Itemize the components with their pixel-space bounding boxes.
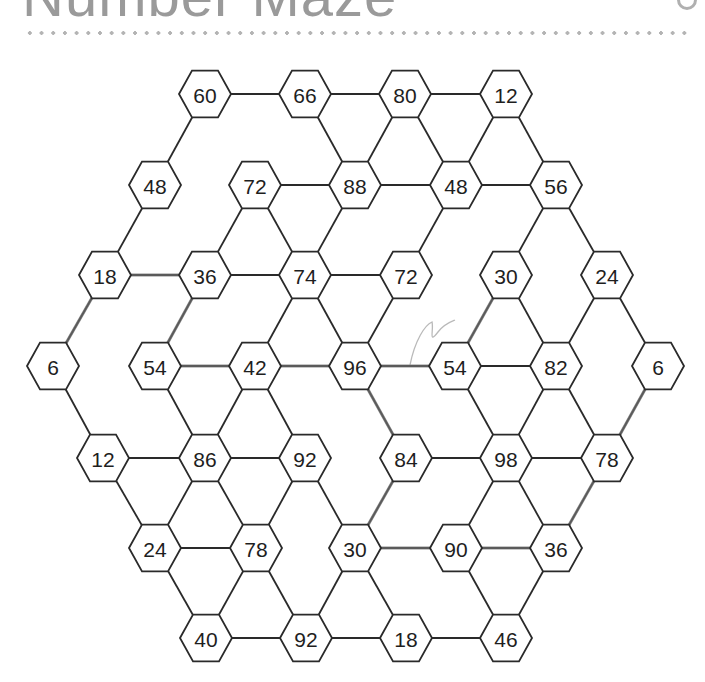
node-value: 66: [293, 84, 316, 107]
node-value: 74: [293, 265, 317, 288]
node-value: 96: [343, 356, 366, 379]
node-value: 54: [443, 356, 467, 379]
node-value: 18: [93, 265, 116, 288]
maze-node[interactable]: 6: [632, 343, 684, 390]
maze-node[interactable]: 42: [229, 343, 281, 390]
node-value: 48: [444, 175, 467, 198]
node-value: 36: [544, 538, 567, 561]
node-value: 18: [394, 628, 417, 651]
maze-node[interactable]: 36: [179, 252, 231, 299]
maze-node[interactable]: 66: [279, 71, 331, 118]
maze-node[interactable]: 74: [279, 252, 331, 299]
node-value: 42: [243, 356, 266, 379]
maze-node[interactable]: 54: [129, 343, 181, 390]
maze-node[interactable]: 72: [380, 252, 432, 299]
maze-node[interactable]: 48: [430, 162, 482, 209]
node-value: 60: [193, 84, 216, 107]
maze-node[interactable]: 72: [229, 162, 281, 209]
maze-node[interactable]: 24: [129, 525, 181, 572]
node-value: 90: [444, 538, 467, 561]
maze-node[interactable]: 84: [380, 435, 432, 482]
maze-node[interactable]: 78: [230, 525, 282, 572]
node-value: 92: [293, 448, 316, 471]
maze-node[interactable]: 80: [379, 71, 431, 118]
maze-node[interactable]: 82: [530, 343, 582, 390]
maze-node[interactable]: 18: [79, 252, 131, 299]
maze-node[interactable]: 24: [581, 252, 633, 299]
maze-node[interactable]: 12: [77, 435, 129, 482]
node-value: 54: [143, 356, 167, 379]
maze-node[interactable]: 88: [329, 162, 381, 209]
maze-node[interactable]: 90: [430, 525, 482, 572]
node-value: 84: [394, 448, 418, 471]
maze-node[interactable]: 56: [530, 162, 582, 209]
maze-nodes: 6066801248728848561836747230246544296548…: [27, 71, 684, 662]
maze-node[interactable]: 30: [480, 252, 532, 299]
maze-node[interactable]: 92: [280, 615, 332, 662]
node-value: 80: [393, 84, 416, 107]
node-value: 72: [243, 175, 266, 198]
node-value: 30: [343, 538, 366, 561]
node-value: 48: [143, 175, 166, 198]
node-value: 98: [494, 448, 517, 471]
node-value: 92: [294, 628, 317, 651]
maze-node[interactable]: 54: [429, 343, 481, 390]
maze-node[interactable]: 60: [179, 71, 231, 118]
node-value: 46: [494, 628, 517, 651]
maze-node[interactable]: 12: [480, 71, 532, 118]
maze-node[interactable]: 18: [380, 615, 432, 662]
pencil-solution-line: [53, 275, 658, 548]
node-value: 30: [494, 265, 517, 288]
node-value: 36: [193, 265, 216, 288]
maze-node[interactable]: 36: [530, 525, 582, 572]
pencil-path: [53, 275, 658, 548]
node-value: 6: [652, 356, 664, 379]
node-value: 72: [394, 265, 417, 288]
node-value: 12: [494, 84, 517, 107]
maze-node[interactable]: 48: [129, 162, 181, 209]
maze-node[interactable]: 86: [179, 435, 231, 482]
maze-node[interactable]: 98: [480, 435, 532, 482]
maze-node[interactable]: 78: [581, 435, 633, 482]
node-value: 56: [544, 175, 567, 198]
maze-node[interactable]: 40: [180, 615, 232, 662]
node-value: 24: [595, 265, 619, 288]
node-value: 88: [343, 175, 366, 198]
node-value: 12: [91, 448, 114, 471]
maze-node[interactable]: 30: [329, 525, 381, 572]
node-value: 78: [595, 448, 618, 471]
node-value: 6: [47, 356, 59, 379]
maze-node[interactable]: 92: [279, 435, 331, 482]
node-value: 86: [193, 448, 216, 471]
maze-node[interactable]: 96: [329, 343, 381, 390]
number-maze: 6066801248728848561836747230246544296548…: [0, 0, 705, 682]
node-value: 24: [143, 538, 167, 561]
maze-node[interactable]: 46: [480, 615, 532, 662]
node-value: 40: [194, 628, 217, 651]
node-value: 78: [244, 538, 267, 561]
node-value: 82: [544, 356, 567, 379]
maze-node[interactable]: 6: [27, 343, 79, 390]
